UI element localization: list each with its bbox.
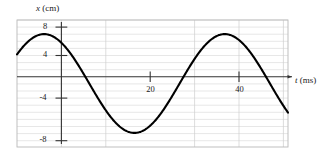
y-tick-label-4: 4 xyxy=(38,49,52,59)
y-axis-label-symbol: x xyxy=(36,3,40,13)
y-tick-label-minus-4: -4 xyxy=(34,92,52,102)
y-tick-label-8: 8 xyxy=(38,21,52,31)
x-axis-label: t (ms) xyxy=(295,75,316,85)
vertical-gridlines xyxy=(61,20,283,147)
x-axis-label-symbol: t xyxy=(295,75,298,85)
x-tick-label-20: 20 xyxy=(141,84,160,94)
chart-figure: x (cm) t (ms) 8 4 -4 -8 20 40 xyxy=(0,0,331,154)
x-axis-line xyxy=(17,75,292,78)
x-tick-label-40: 40 xyxy=(230,84,249,94)
y-tick-label-minus-8: -8 xyxy=(34,134,52,144)
y-axis-label: x (cm) xyxy=(36,3,59,13)
x-axis-label-unit: (ms) xyxy=(300,75,317,85)
y-axis-label-unit: (cm) xyxy=(42,3,59,13)
